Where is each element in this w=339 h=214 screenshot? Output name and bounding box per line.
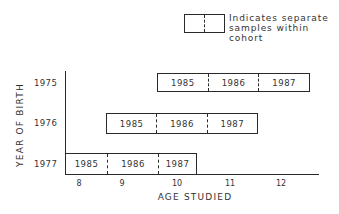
x-tick-10: 10 — [172, 179, 182, 188]
cohort-1975-bar: 1985 1986 1987 — [157, 73, 310, 92]
sample-cell: 1986 — [156, 114, 206, 133]
y-label-1975: 1975 — [34, 78, 57, 88]
sample-cell: 1986 — [208, 74, 259, 91]
sample-cell: 1987 — [207, 114, 257, 133]
legend-line-1: Indicates separate — [229, 13, 329, 23]
x-tick-9: 9 — [119, 179, 124, 188]
legend-swatch-left — [185, 15, 204, 32]
sample-cell: 1985 — [66, 154, 107, 174]
x-axis-title: AGE STUDIED — [158, 192, 233, 202]
sample-cell: 1987 — [158, 154, 196, 174]
cohort-1976-bar: 1985 1986 1987 — [106, 113, 258, 134]
sample-cell: 1985 — [107, 114, 156, 133]
sample-cell: 1986 — [107, 154, 158, 174]
x-tick-12: 12 — [276, 179, 286, 188]
sample-cell: 1987 — [258, 74, 309, 91]
y-label-1976: 1976 — [34, 118, 57, 128]
legend-swatch-right — [204, 15, 224, 32]
x-tick-8: 8 — [76, 179, 81, 188]
legend-line-2: samples within — [229, 23, 329, 33]
y-label-1977: 1977 — [34, 159, 57, 169]
legend-swatch — [184, 14, 225, 33]
y-axis-title: YEAR OF BIRTH — [15, 83, 25, 167]
legend-line-3: cohort — [229, 33, 329, 43]
cohort-1977-bar: 1985 1986 1987 — [65, 153, 197, 175]
x-tick-11: 11 — [225, 179, 235, 188]
sample-cell: 1985 — [158, 74, 208, 91]
legend-text: Indicates separate samples within cohort — [229, 13, 329, 43]
